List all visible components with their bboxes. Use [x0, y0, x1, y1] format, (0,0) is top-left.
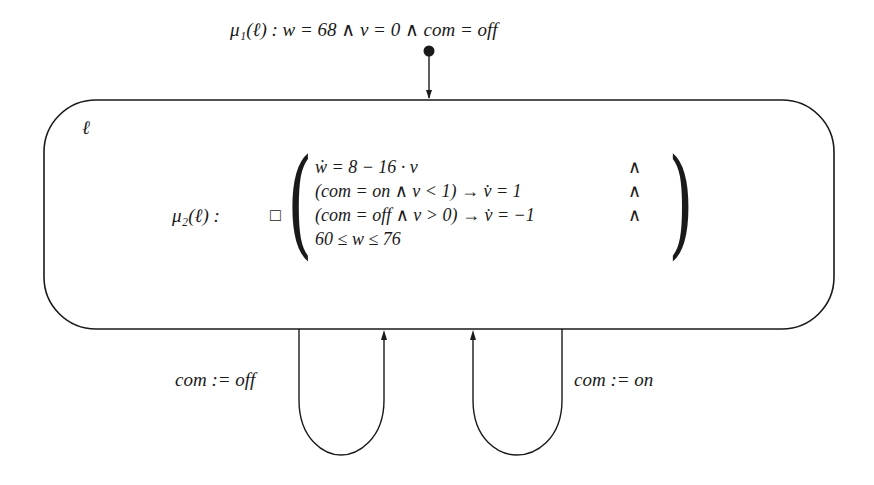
edge-loop-off-arrowhead [381, 330, 387, 340]
invariant-label: μ₂(ℓ) : [172, 206, 220, 225]
edge-label-com-off: com := off [175, 370, 255, 389]
edge-loop-on[interactable] [473, 329, 562, 455]
left-paren: ( [287, 143, 312, 261]
edge-label-com-on: com := on [574, 370, 653, 389]
edge-loop-on-arrowhead [470, 330, 476, 340]
initial-condition-label: μ₁(ℓ) : w = 68 ∧ v = 0 ∧ com = off [230, 20, 498, 39]
initial-arrowhead [426, 90, 432, 99]
invariant-line-2: (com = on ∧ v < 1) → v̇ = 1 [315, 182, 522, 200]
right-paren: ) [668, 143, 693, 261]
invariant-conj-2: ∧ [628, 182, 641, 200]
invariant-conj-3: ∧ [628, 206, 641, 224]
invariant-conj-1: ∧ [628, 158, 641, 176]
invariant-line-4: 60 ≤ w ≤ 76 [315, 230, 401, 248]
edge-loop-off[interactable] [299, 329, 384, 455]
always-operator: □ [270, 206, 281, 224]
diagram-canvas [0, 0, 874, 485]
invariant-line-1: ẇ = 8 − 16 · v [315, 158, 418, 176]
invariant-line-3: (com = off ∧ v > 0) → v̇ = −1 [315, 206, 535, 224]
location-name: ℓ [82, 118, 90, 137]
